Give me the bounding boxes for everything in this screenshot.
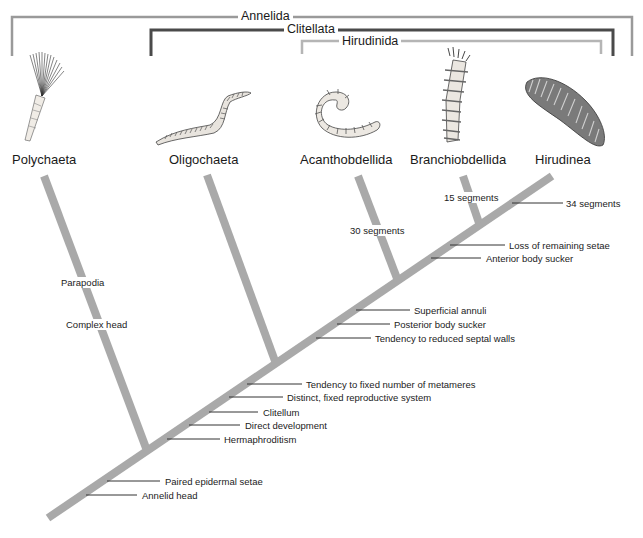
acanthobdellida-illustration [315,89,380,137]
branchiobdellida-illustration [442,47,470,142]
label-15-segments: 15 segments [443,192,499,203]
char-direct-development: Direct development [245,420,327,431]
branch-polychaeta [44,176,146,448]
label-parapodia: Parapodia [60,277,105,288]
char-superficial-annuli: Superficial annuli [414,305,486,316]
oligochaeta-illustration [156,92,251,145]
taxon-polychaeta: Polychaeta [12,152,76,167]
cladogram [0,0,643,538]
char-paired-epidermal-setae: Paired epidermal setae [165,476,263,487]
char-posterior-body-sucker: Posterior body sucker [394,319,486,330]
hirudinea-illustration [526,78,605,146]
char-hermaphroditism: Hermaphroditism [224,434,296,445]
polychaeta-illustration [25,52,64,141]
char-loss-of-remaining-setae: Loss of remaining setae [509,240,610,251]
taxon-hirudinea: Hirudinea [535,152,591,167]
branches [44,175,552,518]
taxon-branchiobdellida: Branchiobdellida [410,152,506,167]
char-reduced-septal-walls: Tendency to reduced septal walls [375,333,515,344]
char-anterior-body-sucker: Anterior body sucker [486,253,573,264]
clade-label-annelida: Annelida [238,9,293,23]
character-ticks [86,203,563,495]
char-clitellum: Clitellum [263,407,299,418]
label-30-segments: 30 segments [349,225,405,236]
char-fixed-metameres: Tendency to fixed number of metameres [306,379,476,390]
branch-oligochaeta [207,175,275,361]
taxon-oligochaeta: Oligochaeta [169,152,238,167]
label-34-segments: 34 segments [566,198,620,209]
clade-label-hirudinida: Hirudinida [339,34,401,48]
char-annelid-head: Annelid head [142,490,197,501]
trunk [48,176,552,518]
label-complex-head: Complex head [65,319,128,330]
taxon-acanthobdellida: Acanthobdellida [300,152,393,167]
char-distinct-reproductive-system: Distinct, fixed reproductive system [287,392,431,403]
clade-label-clitellata: Clitellata [284,22,338,36]
